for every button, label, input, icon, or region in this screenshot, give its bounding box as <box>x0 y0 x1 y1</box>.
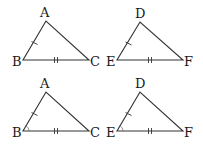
vertex-label-b: B <box>12 125 22 140</box>
vertex-label-b: B <box>12 54 22 69</box>
triangle-outline <box>117 92 183 131</box>
vertex-label-d: D <box>135 6 145 21</box>
vertex-label-a: A <box>39 76 50 91</box>
angle-arc-e <box>120 126 123 131</box>
triangle-outline <box>117 22 183 60</box>
vertex-label-f: F <box>184 54 193 69</box>
vertex-label-e: E <box>106 125 116 140</box>
angle-arc-b <box>26 126 29 131</box>
vertex-label-c: C <box>90 125 100 140</box>
triangle-def-top: D E F <box>106 6 193 69</box>
vertex-label-a: A <box>39 5 50 20</box>
triangle-outline <box>23 21 89 60</box>
triangle-abc-bottom: A B C <box>12 76 100 140</box>
triangle-outline <box>23 92 89 131</box>
vertex-label-d: D <box>135 76 145 91</box>
vertex-label-f: F <box>184 125 193 140</box>
triangle-abc-top: A B C <box>12 5 100 69</box>
diagram-canvas: A B C D E F A B C D E F <box>0 0 203 147</box>
vertex-label-e: E <box>106 54 116 69</box>
triangle-def-bottom: D E F <box>106 76 193 140</box>
vertex-label-c: C <box>90 54 100 69</box>
